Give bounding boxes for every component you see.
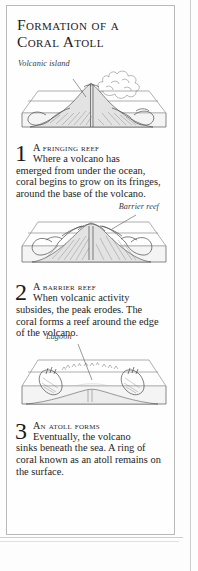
step-2-number: 2 — [15, 281, 27, 303]
figure-label-barrier-reef: Barrier reef — [119, 202, 159, 211]
sea-surface-plane — [22, 360, 166, 386]
figure-label-volcanic-island: Volcanic island — [18, 59, 70, 68]
content-panel: Formation of a Coral Atoll — [6, 5, 175, 535]
step-1-number: 1 — [15, 142, 27, 164]
step-3-number: 3 — [15, 420, 27, 442]
figure-barrier-reef: Barrier reef — [16, 202, 167, 280]
step-2: 2 A barrier reef When volcanic activity … — [16, 281, 165, 338]
figure-atoll-lagoon: Lagoon — [16, 342, 167, 418]
step-3-body: sinks beneath the sea. A ring of coral k… — [16, 442, 165, 477]
figure-volcanic-island: Volcanic island — [16, 53, 167, 141]
atoll-lagoon-illustration — [16, 342, 167, 418]
step-1-line1: Where a volcano has — [33, 153, 165, 165]
step-3-heading: An atoll forms — [33, 420, 165, 431]
leader-line-lagoon — [78, 344, 92, 380]
coral-specks — [62, 362, 118, 370]
page-rule-horizontal-lower — [0, 537, 183, 538]
barrier-reef-illustration — [16, 202, 167, 280]
step-2-heading: A barrier reef — [33, 281, 165, 292]
page-canvas: Formation of a Coral Atoll — [0, 0, 198, 571]
page-rule-horizontal-lowest — [0, 541, 179, 542]
step-2-line1: When volcanic activity — [33, 292, 165, 304]
step-2-body: subsides, the peak erodes. The coral for… — [16, 304, 165, 339]
page-rule-vertical-right — [190, 0, 191, 571]
step-3: 3 An atoll forms Eventually, the volcano… — [16, 420, 165, 477]
step-1-body: emerged from under the ocean, coral begi… — [16, 165, 165, 200]
step-1-heading: A fringing reef — [33, 142, 165, 153]
page-title: Formation of a Coral Atoll — [17, 16, 165, 50]
step-1: 1 A fringing reef Where a volcano has em… — [16, 142, 165, 199]
figure-label-lagoon: Lagoon — [46, 332, 72, 341]
step-3-line1: Eventually, the volcano — [33, 431, 165, 443]
